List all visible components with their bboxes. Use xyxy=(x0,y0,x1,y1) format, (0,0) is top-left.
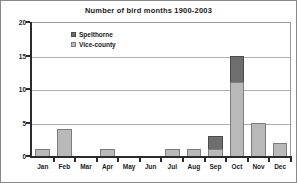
legend-label-vice-county: Vice-county xyxy=(79,41,116,48)
bar-stack-nov xyxy=(251,123,266,157)
legend-swatch-icon-spelthorne xyxy=(71,32,76,37)
bar-stack-dec xyxy=(273,143,288,156)
bar-stack-sep xyxy=(208,136,223,156)
x-tick-label-feb: Feb xyxy=(54,163,76,177)
bar-segment-vice-county-nov xyxy=(251,123,266,157)
y-tick-mark-15 xyxy=(26,55,30,57)
x-tick-jun xyxy=(140,158,162,162)
legend-item-vice-county: Vice-county xyxy=(71,40,116,49)
x-tick-label-jul: Jul xyxy=(161,163,183,177)
y-axis-labels: 20 15 10 5 0 xyxy=(1,1,26,183)
bar-segment-vice-county-sep xyxy=(208,149,223,156)
y-tick-mark-10 xyxy=(26,88,30,90)
bar-group-nov xyxy=(248,22,270,156)
bar-group-jul xyxy=(161,22,183,156)
y-tick-label-15: 15 xyxy=(4,52,26,59)
y-tick-mark-20 xyxy=(26,21,30,23)
bar-group-oct xyxy=(226,22,248,156)
bar-group-sep xyxy=(205,22,227,156)
legend-swatch-icon-vice-county xyxy=(71,42,76,47)
bar-group-jun xyxy=(140,22,162,156)
x-tick-label-jan: Jan xyxy=(32,163,54,177)
x-tick-marks xyxy=(32,158,291,162)
bar-stack-apr xyxy=(100,149,115,156)
x-tick-label-dec: Dec xyxy=(269,163,291,177)
bar-segment-vice-county-jan xyxy=(35,149,50,156)
legend-label-spelthorne: Spelthorne xyxy=(79,31,113,38)
x-tick-label-oct: Oct xyxy=(226,163,248,177)
x-tick-label-sep: Sep xyxy=(205,163,227,177)
x-tick-sep xyxy=(205,158,227,162)
chart-title: Number of bird months 1900-2003 xyxy=(1,6,296,15)
bar-chart-screenshot: Number of bird months 1900-2003 20 15 10… xyxy=(0,0,297,183)
bar-segment-spelthorne-sep xyxy=(208,136,223,149)
x-tick-mar xyxy=(75,158,97,162)
bar-group-aug xyxy=(183,22,205,156)
bar-stack-jul xyxy=(165,149,180,156)
x-tick-label-mar: Mar xyxy=(75,163,97,177)
bar-stack-oct xyxy=(230,56,245,156)
x-axis-labels: JanFebMarAprMayJunJulAugSepOctNovDec xyxy=(32,163,291,177)
x-tick-jul xyxy=(161,158,183,162)
x-tick-oct xyxy=(226,158,248,162)
y-tick-label-10: 10 xyxy=(4,86,26,93)
chart-legend: Spelthorne Vice-county xyxy=(71,30,116,50)
bar-segment-vice-county-apr xyxy=(100,149,115,156)
bar-segment-vice-county-aug xyxy=(187,149,202,156)
bar-group-jan xyxy=(32,22,54,156)
x-tick-label-nov: Nov xyxy=(248,163,270,177)
bar-group-dec xyxy=(269,22,291,156)
x-tick-label-aug: Aug xyxy=(183,163,205,177)
y-tick-label-5: 5 xyxy=(4,119,26,126)
y-tick-mark-5 xyxy=(26,122,30,124)
x-tick-feb xyxy=(54,158,76,162)
x-tick-label-jun: Jun xyxy=(140,163,162,177)
x-tick-may xyxy=(118,158,140,162)
bar-segment-vice-county-feb xyxy=(57,129,72,156)
x-tick-aug xyxy=(183,158,205,162)
bar-segment-vice-county-jul xyxy=(165,149,180,156)
x-tick-nov xyxy=(248,158,270,162)
bar-segment-vice-county-oct xyxy=(230,82,245,156)
x-tick-label-apr: Apr xyxy=(97,163,119,177)
bar-segment-vice-county-dec xyxy=(273,143,288,156)
y-tick-mark-0 xyxy=(26,155,30,157)
legend-item-spelthorne: Spelthorne xyxy=(71,30,116,39)
bar-group-may xyxy=(118,22,140,156)
bar-stack-aug xyxy=(187,149,202,156)
y-tick-label-20: 20 xyxy=(4,19,26,26)
x-tick-dec xyxy=(269,158,291,162)
bar-segment-spelthorne-oct xyxy=(230,56,245,83)
x-tick-label-may: May xyxy=(118,163,140,177)
bar-stack-jan xyxy=(35,149,50,156)
y-tick-label-0: 0 xyxy=(4,153,26,160)
x-tick-jan xyxy=(32,158,54,162)
x-tick-apr xyxy=(97,158,119,162)
bar-stack-feb xyxy=(57,129,72,156)
